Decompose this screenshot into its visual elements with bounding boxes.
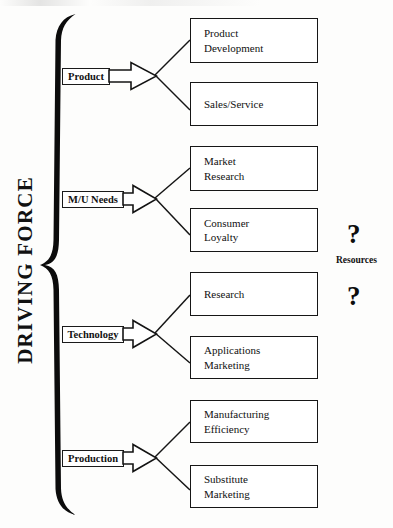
outcome-line1: Sales/Service: [204, 97, 317, 112]
outcome-box[interactable]: Applications Marketing: [190, 336, 318, 379]
outcome-line2: Loyalty: [204, 230, 317, 245]
outcome-line1: Applications: [204, 343, 317, 358]
resources-label: Resources: [336, 255, 377, 266]
outcome-line2: Marketing: [204, 487, 317, 502]
outcome-box[interactable]: Sales/Service: [190, 82, 318, 126]
driving-force-brace: [30, 12, 90, 521]
outcome-box[interactable]: Manufacturing Efficiency: [190, 400, 318, 443]
question-mark-upper: ?: [347, 221, 361, 248]
outcome-line1: Research: [204, 287, 317, 302]
outcome-line1: Substitute: [204, 472, 317, 487]
block-arrow-icon-mu-needs: [122, 184, 158, 218]
outcome-line1: Product: [204, 26, 317, 41]
outcome-line2: Efficiency: [204, 422, 317, 437]
outcome-box[interactable]: Market Research: [190, 146, 318, 191]
outcome-box[interactable]: Research: [190, 272, 318, 316]
block-arrow-icon-product: [108, 61, 158, 95]
outcome-line2: Research: [204, 169, 317, 184]
driver-label-product[interactable]: Product: [62, 68, 110, 85]
scan-edge-artifact: [0, 0, 393, 6]
driver-label-technology[interactable]: Technology: [62, 326, 124, 343]
outcome-line2: Development: [204, 41, 317, 56]
outcome-line2: Marketing: [204, 358, 317, 373]
driver-label-production[interactable]: Production: [62, 450, 124, 467]
outcome-line1: Manufacturing: [204, 407, 317, 422]
outcome-line1: Consumer: [204, 216, 317, 231]
outcome-box[interactable]: Product Development: [190, 18, 318, 63]
driver-label-mu-needs[interactable]: M/U Needs: [62, 191, 124, 208]
block-arrow-icon-production: [122, 443, 158, 477]
question-mark-lower: ?: [347, 283, 361, 310]
outcome-line1: Market: [204, 154, 317, 169]
block-arrow-icon-technology: [122, 319, 158, 353]
outcome-box[interactable]: Substitute Marketing: [190, 465, 318, 508]
outcome-box[interactable]: Consumer Loyalty: [190, 208, 318, 252]
diagram-canvas: DRIVING FORCE Product M/U Needs: [0, 0, 393, 528]
